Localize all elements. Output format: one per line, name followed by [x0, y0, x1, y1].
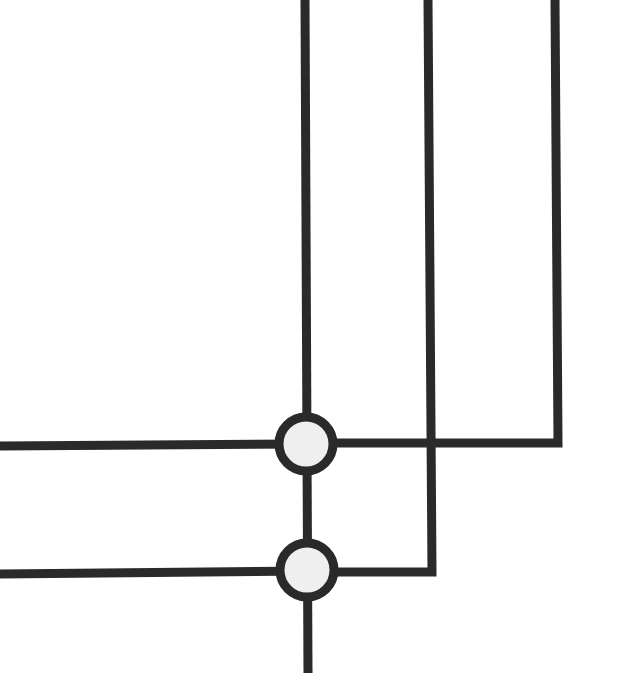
vertical-2-wire [308, 0, 432, 572]
wiring-diagram [0, 0, 630, 673]
horizontal-1-wire [0, 444, 305, 446]
junction-1-circle-icon [279, 417, 333, 471]
junction-2-circle-icon [280, 543, 334, 597]
horizontal-2-wire [0, 571, 307, 574]
